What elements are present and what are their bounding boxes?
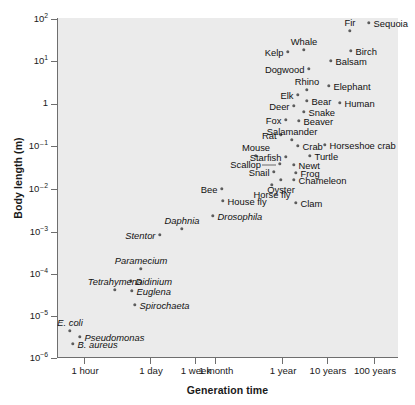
point-label: Paramecium (115, 255, 168, 264)
x-tick-label: 1 hour (71, 366, 98, 376)
point-label: Elephant (334, 82, 371, 91)
point-label: Elk (280, 91, 293, 100)
x-tick-label: 1 year (270, 366, 297, 376)
point-label: Chameleon (299, 176, 347, 185)
point-label: Fox (266, 116, 282, 125)
point-label: Balsam (336, 57, 367, 66)
x-tick: 1 hour (84, 358, 85, 364)
x-axis-title: Generation time (57, 384, 398, 396)
point-label: Kelp (265, 48, 284, 57)
y-tick-label: 10−3 (30, 226, 48, 237)
y-tick-label: 10⁻1 (29, 140, 48, 151)
y-tick: 10⁻1 (51, 146, 57, 147)
y-tick-label: 10−6 (30, 352, 48, 363)
y-tick: 1 (51, 104, 57, 105)
x-tick: 1 day (150, 358, 151, 364)
y-tick-label: 101 (34, 55, 48, 66)
point-label: Deer (269, 102, 289, 111)
point-label: Crab (303, 142, 323, 151)
y-tick: 10−3 (51, 232, 57, 233)
point-label: Euglena (137, 287, 171, 296)
plot-area (57, 18, 398, 358)
point-label: Human (345, 99, 375, 108)
body-length-vs-generation-time-chart: 102101110⁻110⁻210−310−410−510−6 1 hour1 … (0, 0, 415, 405)
scallop-leader-line (262, 164, 276, 165)
y-tick-label: 10⁻2 (29, 183, 48, 194)
y-tick: 10−4 (51, 274, 57, 275)
y-tick-label: 102 (34, 13, 48, 24)
y-tick-label: 10−5 (30, 310, 48, 321)
point-label: Whale (291, 36, 318, 45)
point-label: Sequoia (374, 19, 408, 28)
y-tick: 102 (51, 19, 57, 20)
x-tick-label: 1 month (199, 366, 234, 376)
y-tick: 10⁻2 (51, 189, 57, 190)
x-tick: 10 years (327, 358, 328, 364)
point-label: Tetrahymena (88, 276, 142, 285)
x-tick-label: 1 day (139, 366, 162, 376)
point-label: B. aureus (78, 340, 118, 349)
y-tick-label: 10−4 (30, 268, 48, 279)
y-tick-label: 1 (43, 98, 48, 108)
point-label: Salamander (267, 126, 318, 135)
point-label: Clam (301, 199, 323, 208)
point-label: Daphnia (165, 215, 200, 224)
point-label: Spirochaeta (140, 301, 190, 310)
point-label: Bee (201, 185, 218, 194)
y-tick: 101 (51, 61, 57, 62)
point-label: Dogwood (265, 65, 305, 74)
point-label: Drosophila (218, 212, 263, 221)
x-tick: 1 week (195, 358, 196, 364)
y-tick: 10−6 (51, 358, 57, 359)
point-label: House fly (228, 197, 267, 206)
x-tick-label: 10 years (310, 366, 347, 376)
x-tick: 100 years (374, 358, 375, 364)
x-tick: 1 month (215, 358, 216, 364)
point-label: Fir (345, 17, 356, 26)
x-tick-label: 100 years (354, 366, 396, 376)
point-label: Snail (249, 168, 270, 177)
point-label: Birch (356, 47, 377, 56)
point-label: Horseshoe crab (330, 141, 396, 150)
y-tick: 10−5 (51, 316, 57, 317)
point-label: E. coli (57, 317, 83, 326)
point-label: Bear (312, 97, 332, 106)
point-label: Mouse (242, 142, 270, 151)
point-label: Stentor (125, 231, 155, 240)
y-axis-title: Body length (m) (12, 68, 24, 288)
x-tick: 1 year (282, 358, 283, 364)
point-label: Rhino (295, 76, 320, 85)
